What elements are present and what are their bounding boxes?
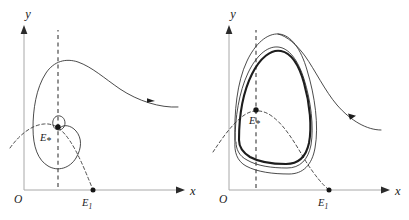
- x-axis-label-right: x: [394, 184, 401, 198]
- incoming-trajectory-left: [33, 60, 178, 168]
- equilibrium-label-E1-left: E1: [81, 197, 92, 211]
- y-axis-label-left: y: [23, 7, 31, 21]
- origin-label-right: O: [219, 193, 228, 205]
- x-axis-arrowhead-left: [176, 186, 185, 193]
- trajectory-direction-arrow-left: [147, 98, 155, 103]
- phase-plot-left: y x O E* E1: [0, 0, 204, 220]
- phase-portrait-panel-left: y x O E* E1: [0, 0, 204, 220]
- equilibrium-point-E-star-left: [55, 124, 60, 129]
- y-axis-arrowhead-right: [226, 25, 233, 34]
- equilibrium-label-E-star-right: E*: [248, 115, 260, 129]
- equilibrium-point-E-star-right: [253, 107, 258, 112]
- x-axis-arrowhead-right: [381, 186, 390, 193]
- equilibrium-label-E1-right: E1: [317, 197, 328, 211]
- prey-nullcline-left: [10, 124, 93, 190]
- phase-portrait-panel-right: y x O E* E1: [205, 0, 409, 220]
- equilibrium-point-E1-right: [327, 188, 332, 193]
- inner-spiral-right: [235, 47, 312, 168]
- y-axis-arrowhead-left: [21, 25, 28, 34]
- incoming-trajectory-right: [278, 34, 381, 130]
- phase-plot-right: y x O E* E1: [205, 0, 409, 220]
- origin-label-left: O: [14, 193, 23, 205]
- y-axis-label-right: y: [228, 7, 236, 21]
- x-axis-label-left: x: [189, 184, 196, 198]
- phase-portrait-figure: y x O E* E1: [0, 0, 409, 220]
- equilibrium-point-E1-left: [91, 188, 96, 193]
- equilibrium-label-E-star-left: E*: [39, 132, 51, 146]
